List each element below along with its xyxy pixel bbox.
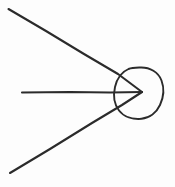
- figure-container: [0, 0, 175, 187]
- horizontal-ray-line: [22, 92, 142, 93]
- converging-rays-diagram: [0, 0, 175, 187]
